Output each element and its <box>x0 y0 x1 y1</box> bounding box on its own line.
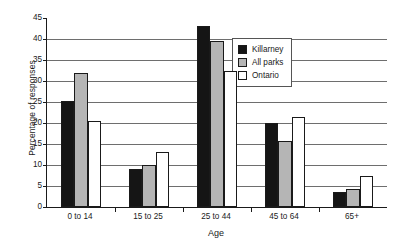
legend-item-label: All parks <box>252 58 283 67</box>
x-tick-label: 25 to 44 <box>182 212 250 222</box>
legend-item: Ontario <box>238 69 283 82</box>
gray-square-swatch <box>238 58 247 67</box>
bar <box>129 169 143 207</box>
bar <box>292 117 306 207</box>
bar <box>88 121 102 207</box>
legend-item: Killarney <box>238 43 283 56</box>
white-square-swatch <box>238 71 247 80</box>
plot-area <box>46 18 387 208</box>
y-axis-tick-labels: 051015202530354045 <box>20 0 42 248</box>
black-square-swatch <box>238 45 247 54</box>
x-tick-label: 45 to 64 <box>250 212 318 222</box>
bar <box>197 26 211 207</box>
y-tick-label: 5 <box>20 182 42 190</box>
legend-item-label: Killarney <box>252 45 283 54</box>
x-axis-tick-labels: 0 to 1415 to 2525 to 4445 to 6465+ <box>46 212 386 226</box>
x-tick-label: 0 to 14 <box>46 212 114 222</box>
y-tick-label: 45 <box>20 14 42 22</box>
chart-legend: KillarneyAll parksOntario <box>232 38 292 87</box>
bar-chart: Percentage of responses 0510152025303540… <box>0 0 402 248</box>
bar <box>265 123 279 207</box>
y-tick-label: 40 <box>20 35 42 43</box>
bar <box>142 165 156 207</box>
legend-item-label: Ontario <box>252 71 279 80</box>
bar <box>346 189 360 207</box>
y-tick-label: 30 <box>20 77 42 85</box>
y-tick-label: 15 <box>20 140 42 148</box>
bars-layer <box>47 18 387 207</box>
y-tick-label: 10 <box>20 161 42 169</box>
bar <box>156 152 170 207</box>
x-tick-label: 65+ <box>318 212 386 222</box>
x-axis-title: Age <box>46 228 386 238</box>
y-tick-label: 20 <box>20 119 42 127</box>
bar <box>333 192 347 207</box>
y-tick-label: 25 <box>20 98 42 106</box>
bar <box>278 141 292 207</box>
bar <box>61 101 75 207</box>
x-tick-label: 15 to 25 <box>114 212 182 222</box>
bar <box>224 71 238 208</box>
y-tick-mark <box>43 207 47 208</box>
bar <box>74 73 88 207</box>
bar <box>210 41 224 207</box>
bar <box>360 176 374 208</box>
legend-item: All parks <box>238 56 283 69</box>
y-tick-label: 0 <box>20 203 42 211</box>
y-tick-label: 35 <box>20 56 42 64</box>
